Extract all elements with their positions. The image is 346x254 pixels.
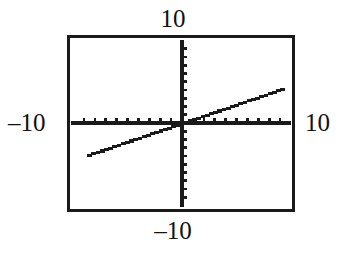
line-pixel-segment bbox=[150, 132, 155, 135]
line-pixel-segment bbox=[209, 112, 214, 115]
line-pixel-segment bbox=[167, 127, 172, 130]
line-pixel-segment bbox=[163, 128, 168, 131]
line-pixel-segment bbox=[142, 135, 147, 138]
plot-svg bbox=[67, 35, 295, 212]
line-pixel-segment bbox=[146, 134, 151, 137]
x-min-label: –10 bbox=[8, 110, 46, 135]
line-pixel-segment bbox=[268, 92, 273, 95]
line-pixel-segment bbox=[230, 105, 235, 108]
line-pixel-segment bbox=[100, 149, 105, 152]
line-pixel-segment bbox=[264, 94, 269, 97]
line-pixel-segment bbox=[188, 119, 193, 122]
line-pixel-segment bbox=[171, 125, 176, 128]
line-pixel-segment bbox=[175, 124, 180, 127]
line-pixel-segment bbox=[255, 97, 260, 100]
line-pixel-segment bbox=[96, 151, 101, 154]
line-pixel-segment bbox=[91, 152, 96, 155]
line-pixel-segment bbox=[159, 129, 164, 132]
plot-frame bbox=[67, 35, 295, 212]
line-pixel-segment bbox=[121, 142, 126, 145]
line-pixel-segment bbox=[280, 88, 285, 91]
line-pixel-segment bbox=[247, 99, 252, 102]
line-pixel-segment bbox=[125, 141, 130, 144]
x-max-label: 10 bbox=[305, 110, 330, 135]
line-pixel-segment bbox=[154, 131, 159, 134]
line-pixel-segment bbox=[251, 98, 256, 101]
line-pixel-segment bbox=[108, 147, 113, 150]
line-pixel-segment bbox=[205, 114, 210, 117]
line-pixel-segment bbox=[129, 139, 134, 142]
line-pixel-segment bbox=[87, 154, 92, 157]
line-pixel-segment bbox=[192, 118, 197, 121]
y-min-label: –10 bbox=[0, 218, 346, 243]
line-pixel-segment bbox=[201, 115, 206, 118]
line-pixel-segment bbox=[133, 138, 138, 141]
line-pixel-segment bbox=[238, 102, 243, 105]
line-pixel-segment bbox=[222, 108, 227, 111]
line-pixel-segment bbox=[272, 91, 277, 94]
line-pixel-segment bbox=[226, 107, 231, 110]
line-pixel-segment bbox=[184, 121, 189, 124]
line-pixel-segment bbox=[217, 109, 222, 112]
line-pixel-segment bbox=[243, 101, 248, 104]
line-pixel-segment bbox=[104, 148, 109, 151]
line-pixel-segment bbox=[180, 122, 185, 125]
line-pixel-segment bbox=[196, 117, 201, 120]
line-pixel-segment bbox=[276, 89, 281, 92]
line-pixel-segment bbox=[138, 137, 143, 140]
graphing-calculator-screen: 10 –10 10 –10 bbox=[0, 0, 346, 254]
line-pixel-segment bbox=[234, 104, 239, 107]
line-pixel-segment bbox=[259, 95, 264, 98]
line-pixel-segment bbox=[117, 144, 122, 147]
y-max-label: 10 bbox=[0, 6, 346, 31]
line-pixel-segment bbox=[112, 145, 117, 148]
line-pixel-segment bbox=[213, 111, 218, 114]
